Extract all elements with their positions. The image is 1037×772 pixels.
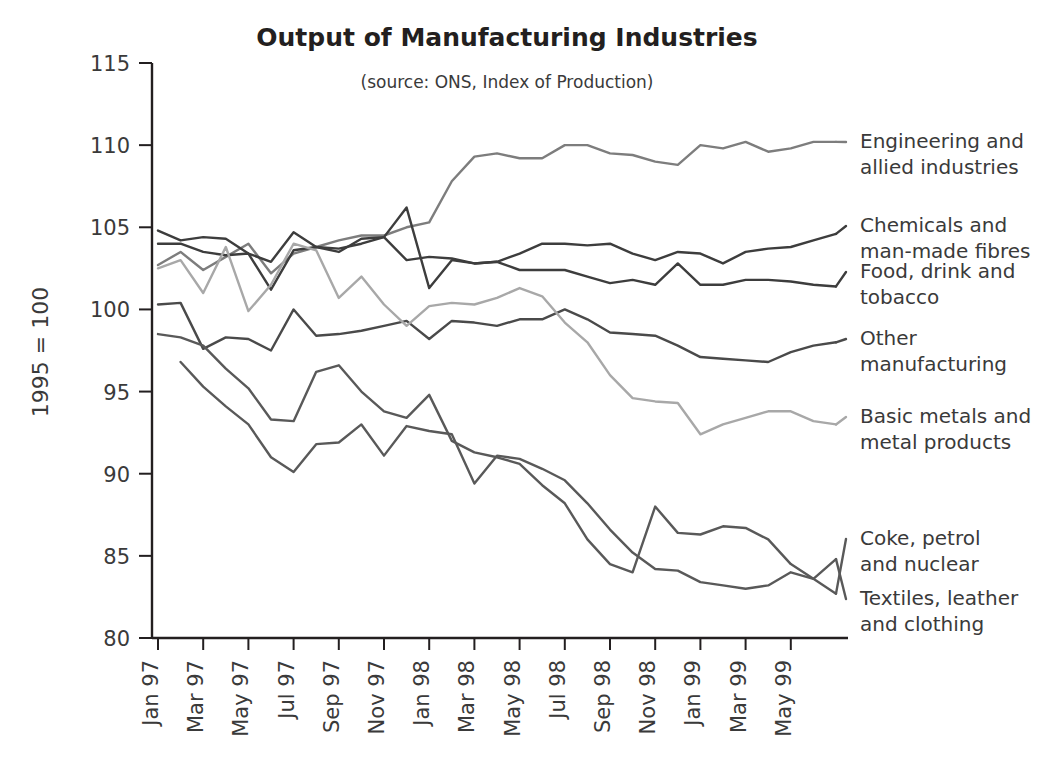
x-tick-label: Jan 99 — [681, 660, 705, 728]
x-tick-label: Nov 97 — [365, 660, 389, 734]
legend-label-0: Engineering and — [860, 129, 1024, 153]
y-axis: 80859095100105110115 — [90, 52, 152, 651]
chart-title: Output of Manufacturing Industries — [256, 23, 757, 52]
y-tick-group: 80859095100105110115 — [90, 52, 152, 651]
y-tick-label: 115 — [90, 52, 130, 76]
chart-container: Output of Manufacturing Industries (sour… — [0, 0, 1037, 772]
x-tick-label: Mar 98 — [455, 660, 479, 733]
legend-leader-line-1 — [836, 226, 846, 234]
legend-label-3: Other — [860, 326, 918, 350]
y-axis-label: 1995 = 100 — [28, 287, 53, 417]
legend-label-4: Basic metals and — [860, 404, 1031, 428]
series-line-6 — [181, 362, 836, 589]
series-group — [158, 142, 836, 594]
x-tick-label: May 99 — [772, 660, 796, 737]
y-tick-label: 85 — [103, 545, 130, 569]
x-tick-label: Sep 97 — [320, 660, 344, 733]
series-line-5 — [158, 334, 836, 594]
x-tick-label: Nov 98 — [636, 660, 660, 734]
legend-label-2: Food, drink and — [860, 259, 1015, 283]
legend-leader-line-2 — [836, 272, 846, 286]
legend-leader-line-4 — [836, 417, 846, 424]
y-tick-label: 95 — [103, 381, 130, 405]
series-line-2 — [158, 208, 836, 290]
y-tick-label: 110 — [90, 134, 130, 158]
legend-label-5: and nuclear — [860, 552, 979, 576]
series-line-0 — [158, 142, 836, 273]
x-tick-label: May 98 — [501, 660, 525, 737]
x-axis: Jan 97Mar 97May 97Jul 97Sep 97Nov 97Jan … — [139, 638, 848, 737]
legend-label-6: and clothing — [860, 612, 984, 636]
legend-group: Engineering andallied industriesChemical… — [836, 129, 1031, 636]
x-tick-label: Sep 98 — [591, 660, 615, 733]
legend-label-4: metal products — [860, 430, 1011, 454]
legend-label-3: manufacturing — [860, 352, 1007, 376]
x-tick-label: Mar 99 — [727, 660, 751, 733]
series-line-1 — [158, 231, 836, 264]
legend-label-1: Chemicals and — [860, 213, 1007, 237]
x-tick-label: Jan 98 — [410, 660, 434, 728]
x-tick-label: May 97 — [229, 660, 253, 737]
y-tick-label: 90 — [103, 463, 130, 487]
line-chart: Output of Manufacturing Industries (sour… — [0, 0, 1037, 772]
legend-label-6: Textiles, leather — [859, 586, 1019, 610]
legend-leader-line-3 — [836, 339, 846, 342]
x-tick-group: Jan 97Mar 97May 97Jul 97Sep 97Nov 97Jan … — [139, 638, 796, 737]
x-tick-label: Jul 97 — [275, 660, 299, 721]
x-tick-label: Jul 98 — [546, 660, 570, 721]
chart-subtitle: (source: ONS, Index of Production) — [361, 72, 654, 92]
legend-label-0: allied industries — [860, 155, 1019, 179]
legend-label-2: tobacco — [860, 285, 939, 309]
y-tick-label: 105 — [90, 216, 130, 240]
x-tick-label: Jan 97 — [139, 660, 163, 728]
y-tick-label: 100 — [90, 298, 130, 322]
x-tick-label: Mar 97 — [184, 660, 208, 733]
series-line-3 — [158, 303, 836, 362]
legend-label-5: Coke, petrol — [860, 526, 981, 550]
y-tick-label: 80 — [103, 627, 130, 651]
